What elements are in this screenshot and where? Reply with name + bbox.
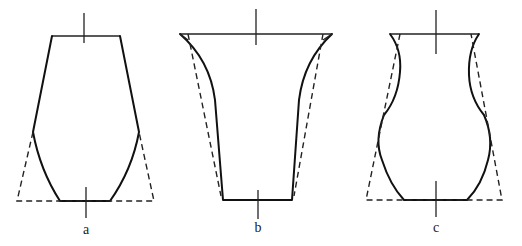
vase-a-label: a	[83, 222, 90, 237]
vase-b-label: b	[255, 220, 262, 235]
background	[0, 0, 522, 246]
vase-profile-diagram: a b c	[0, 0, 522, 246]
vase-c-label: c	[433, 220, 439, 235]
